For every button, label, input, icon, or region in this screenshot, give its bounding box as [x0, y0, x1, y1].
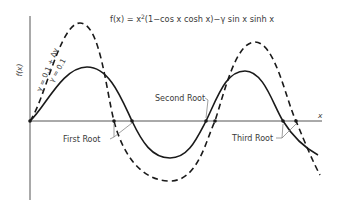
second-root-leader: [205, 98, 208, 118]
root-finding-diagram: f(x) = x2(1−cos x cosh x)−γ sin x sinh x…: [0, 0, 341, 202]
equation-title: f(x) = x2(1−cos x cosh x)−γ sin x sinh x: [110, 13, 274, 24]
root-dot: [130, 119, 134, 123]
root-dot: [281, 119, 285, 123]
root-dot: [294, 119, 298, 123]
first-root-leader: [110, 123, 132, 139]
second-root-label: Second Root: [155, 94, 205, 103]
root-dot: [112, 119, 116, 123]
first-root-label: First Root: [63, 135, 101, 144]
root-dot: [28, 119, 32, 123]
third-root-leader: [276, 124, 283, 138]
third-root-label: Third Root: [231, 134, 273, 143]
solid-curve-gamma-0.1: [30, 67, 318, 158]
x-axis-label: x: [317, 111, 323, 120]
root-dot: [213, 119, 217, 123]
y-axis-label: f(x): [15, 63, 24, 76]
root-dot: [204, 119, 208, 123]
